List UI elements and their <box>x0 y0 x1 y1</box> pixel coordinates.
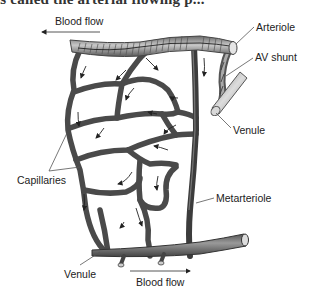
venule-bottom-vessel <box>92 234 249 267</box>
label-metarteriole: Metarteriole <box>216 192 271 204</box>
label-venule-bottom: Venule <box>64 268 96 280</box>
label-av-shunt: AV shunt <box>255 51 297 63</box>
venule-tube-right <box>209 72 247 117</box>
capillary-network <box>68 44 196 256</box>
label-blood-flow-bottom: Blood flow <box>136 276 184 288</box>
label-capillaries: Capillaries <box>17 174 66 186</box>
label-blood-flow-top: Blood flow <box>55 15 103 27</box>
arteriole-vessel <box>70 36 237 57</box>
label-venule-right: Venule <box>233 124 265 136</box>
capillary-bed-illustration <box>0 0 310 294</box>
metarteriole-vessel <box>189 46 196 256</box>
label-arteriole: Arteriole <box>256 21 295 33</box>
